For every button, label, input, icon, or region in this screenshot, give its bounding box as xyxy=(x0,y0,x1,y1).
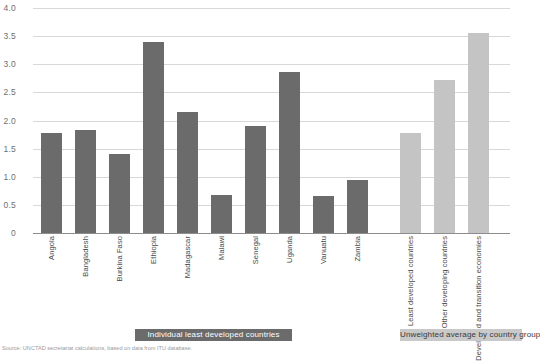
bar xyxy=(211,195,232,233)
x-axis-category-label: Ethiopia xyxy=(143,236,164,316)
x-axis-category-text: Malawi xyxy=(218,236,226,260)
gridline xyxy=(33,36,510,37)
legend-unweighted-average-by-country-group: Unweighted average by country group xyxy=(400,329,522,341)
x-axis-category-label: Angola xyxy=(41,236,62,316)
x-axis-category-text: Bangladesh xyxy=(82,236,90,277)
x-axis-category-label: Zambia xyxy=(347,236,368,316)
chart-footnote: Source: UNCTAD secretariat calculations,… xyxy=(2,345,332,352)
x-axis-labels: AngolaBangladeshBurkina FasoEthiopiaMada… xyxy=(33,236,510,320)
gridline xyxy=(33,64,510,65)
bar xyxy=(41,133,62,233)
x-axis-category-text: Least developed countries xyxy=(407,236,415,326)
bar xyxy=(109,154,130,233)
y-axis-tick-label: 0.5 xyxy=(0,201,16,210)
plot-area: 4.03.53.02.52.01.51.00.50 xyxy=(33,8,510,233)
legend-individual-least-developed-countries: Individual least developed countries xyxy=(135,329,292,341)
bar xyxy=(434,80,455,233)
x-axis-category-label: Other developing countries xyxy=(434,236,455,316)
x-axis-category-text: Angola xyxy=(48,236,56,260)
x-axis-category-label: Bangladesh xyxy=(75,236,96,316)
x-axis-category-text: Developed and transition economies xyxy=(475,236,483,361)
y-axis-tick-label: 0 xyxy=(0,229,16,238)
y-axis-tick-label: 2.5 xyxy=(0,88,16,97)
x-axis-category-text: Burkina Faso xyxy=(116,236,124,281)
bar xyxy=(177,112,198,233)
bar xyxy=(347,180,368,233)
gridline xyxy=(33,8,510,9)
y-axis-tick-label: 3.5 xyxy=(0,32,16,41)
axis-baseline xyxy=(33,233,510,234)
y-axis-tick-label: 1.5 xyxy=(0,145,16,154)
bar xyxy=(279,72,300,233)
x-axis-category-label: Burkina Faso xyxy=(109,236,130,316)
x-axis-category-text: Madagascar xyxy=(184,236,192,278)
x-axis-category-label: Madagascar xyxy=(177,236,198,316)
x-axis-category-text: Senegal xyxy=(252,236,260,264)
x-axis-category-text: Zambia xyxy=(354,236,362,262)
y-axis-tick-label: 3.0 xyxy=(0,60,16,69)
x-axis-category-label: Senegal xyxy=(245,236,266,316)
x-axis-category-text: Uganda xyxy=(286,236,294,263)
x-axis-category-label: Vanuatu xyxy=(313,236,334,316)
x-axis-category-text: Other developing countries xyxy=(441,236,449,328)
bar xyxy=(143,42,164,233)
y-axis-tick-label: 4.0 xyxy=(0,4,16,13)
y-axis-tick-label: 1.0 xyxy=(0,173,16,182)
bar xyxy=(400,133,421,233)
x-axis-category-label: Uganda xyxy=(279,236,300,316)
x-axis-category-text: Ethiopia xyxy=(150,236,158,264)
bar xyxy=(75,130,96,233)
x-axis-category-text: Vanuatu xyxy=(320,236,328,264)
x-axis-category-label: Least developed countries xyxy=(400,236,421,316)
x-axis-category-label: Malawi xyxy=(211,236,232,316)
bar xyxy=(468,33,489,233)
x-axis-category-label: Developed and transition economies xyxy=(468,236,489,316)
y-axis-tick-label: 2.0 xyxy=(0,117,16,126)
bar xyxy=(245,126,266,233)
bar xyxy=(313,196,334,233)
